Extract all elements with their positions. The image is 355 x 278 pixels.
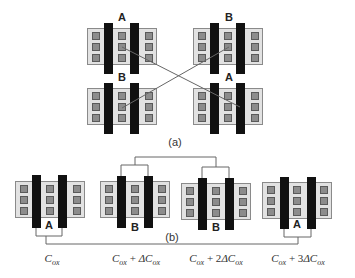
- interconnect-wires: [0, 0, 355, 278]
- wire-b-to-b: [122, 47, 229, 108]
